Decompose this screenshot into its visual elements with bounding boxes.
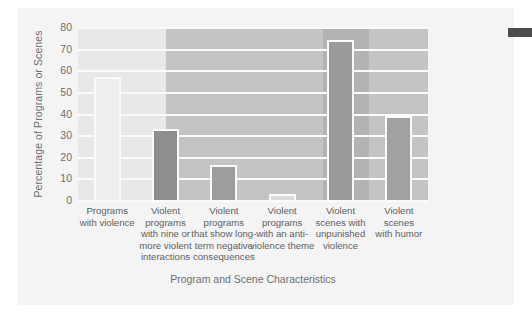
bar [152, 129, 179, 200]
x-category-label-line: that show long- [191, 228, 256, 239]
y-axis-title: Percentage of Programs or Scenes [32, 14, 44, 214]
x-category-label-line: with humor [375, 228, 422, 239]
bar-fill [271, 196, 294, 200]
bar [210, 165, 237, 200]
plot-area [78, 27, 428, 200]
y-tick-label: 10 [46, 172, 72, 184]
x-category-label-line: Violent [384, 205, 413, 216]
bar-fill [154, 131, 177, 200]
y-tick-label: 70 [46, 43, 72, 55]
x-category-label-line: Violent [151, 205, 180, 216]
bar-fill [212, 167, 235, 200]
y-tick-label: 80 [46, 21, 72, 33]
x-axis-title: Program and Scene Characteristics [78, 273, 428, 285]
x-category-label-line: unpunished [316, 228, 366, 239]
x-category-label-line: violence theme [250, 240, 315, 251]
gridline [78, 135, 428, 137]
y-tick-label: 30 [46, 129, 72, 141]
x-category-label-line: Violent [268, 205, 297, 216]
gridline [78, 157, 428, 159]
gridline [78, 114, 428, 116]
bar-fill [387, 118, 410, 200]
bar-chart: Percentage of Programs or Scenes 8070605… [0, 0, 532, 318]
y-tick-label: 20 [46, 151, 72, 163]
y-tick-label: 50 [46, 86, 72, 98]
y-tick-label: 40 [46, 108, 72, 120]
bar [94, 77, 121, 200]
x-category-label-line: interactions [141, 251, 190, 262]
x-category-label-line: with an anti- [256, 228, 308, 239]
y-axis-tick-labels: 80706050403020100 [44, 27, 72, 200]
scanned-page: Percentage of Programs or Scenes 8070605… [0, 0, 532, 318]
x-category-label-line: programs [145, 217, 186, 228]
bar [269, 194, 296, 200]
scan-artifact-mark [508, 28, 532, 37]
x-category-label-line: Violent [326, 205, 355, 216]
x-category-label-line: scenes [384, 217, 414, 228]
gridline [78, 70, 428, 72]
gridline [78, 92, 428, 94]
x-category-label-line: Violent [209, 205, 238, 216]
x-category-label-line: consequences [193, 251, 255, 262]
x-category-label-line: violence [323, 240, 358, 251]
gridline [78, 178, 428, 180]
x-category-label-line: with nine or [141, 228, 190, 239]
bar-fill [96, 79, 119, 200]
bar-fill [329, 42, 352, 200]
bar [327, 40, 354, 200]
gridline [78, 200, 428, 202]
bar [385, 116, 412, 200]
gridline [78, 49, 428, 51]
x-category-label-line: programs [262, 217, 303, 228]
x-category-label-line: programs [204, 217, 245, 228]
x-category-label-line: with violence [80, 217, 135, 228]
gridline [78, 27, 428, 29]
y-tick-label: 0 [46, 194, 72, 206]
x-category-label: Violentsceneswith humor [365, 205, 433, 240]
x-category-label-line: more violent [139, 240, 191, 251]
x-category-label-line: Programs [86, 205, 128, 216]
y-tick-label: 60 [46, 64, 72, 76]
x-axis-category-labels: Programswith violenceViolentprogramswith… [78, 205, 428, 267]
x-category-label-line: scenes with [315, 217, 365, 228]
x-category-label-line: term negative [195, 240, 253, 251]
